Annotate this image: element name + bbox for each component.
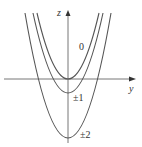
y-axis-arrow-icon — [129, 77, 136, 82]
curve-label-0: 0 — [79, 41, 84, 52]
curve-label-2: ±2 — [80, 129, 91, 140]
z-axis-label: z — [56, 7, 61, 18]
curve-label-1: ±1 — [73, 92, 84, 103]
z-axis-arrow-icon — [66, 10, 71, 16]
trace-diagram: z y 0 ±1 ±2 — [0, 0, 142, 147]
y-axis-label: y — [128, 83, 134, 94]
